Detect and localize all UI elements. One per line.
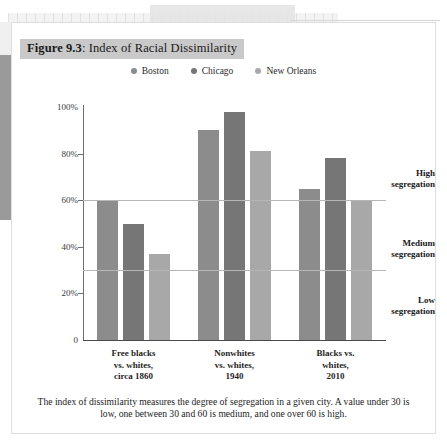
bar-boston-2[interactable] xyxy=(299,189,320,340)
x-category-label-line: Nonwhites xyxy=(184,348,285,360)
segregation-label-line: Medium xyxy=(391,238,435,249)
y-tick-mark xyxy=(78,293,84,294)
bar-chicago-0[interactable] xyxy=(123,224,144,341)
segregation-label-line: segregation xyxy=(391,179,435,190)
legend-marker-icon xyxy=(191,68,197,74)
low-segregation-label: Lowsegregation xyxy=(391,295,435,317)
scan-rule-artifact xyxy=(290,20,440,21)
x-category-label-line: 1940 xyxy=(184,371,285,383)
legend-label: Boston xyxy=(142,66,169,76)
reference-line-30 xyxy=(83,270,386,271)
bar-chicago-1[interactable] xyxy=(224,112,245,340)
x-category-label-line: vs. whites, xyxy=(83,360,184,372)
y-tick-label: 20% xyxy=(62,288,79,298)
y-tick-mark xyxy=(78,154,84,155)
x-category-label: Free blacksvs. whites,circa 1860 xyxy=(83,348,184,383)
x-category-label: Nonwhitesvs. whites,1940 xyxy=(184,348,285,383)
legend-item-new-orleans[interactable]: New Orleans xyxy=(255,66,316,76)
x-category-label-line: Free blacks xyxy=(83,348,184,360)
bar-chicago-2[interactable] xyxy=(325,158,346,340)
legend-item-boston[interactable]: Boston xyxy=(131,66,169,76)
y-tick-label: 100% xyxy=(57,102,78,112)
figure-caption: The index of dissimilarity measures the … xyxy=(30,396,417,421)
x-category-label: Blacks vs.whites,2010 xyxy=(285,348,386,383)
segregation-label-line: High xyxy=(391,168,435,179)
x-category-label-line: circa 1860 xyxy=(83,371,184,383)
page-edge-artifact-dark xyxy=(0,55,11,220)
y-tick-label: 60% xyxy=(62,195,79,205)
plot-area xyxy=(83,107,386,340)
segregation-label-line: segregation xyxy=(391,306,435,317)
bar-new-orleans-1[interactable] xyxy=(250,151,271,340)
bar-new-orleans-0[interactable] xyxy=(149,254,170,340)
figure-title-text: Index of Racial Dissimilarity xyxy=(89,41,237,55)
segregation-label-line: Low xyxy=(391,295,435,306)
y-tick-mark xyxy=(78,247,84,248)
bar-boston-1[interactable] xyxy=(198,130,219,340)
x-category-label-line: Blacks vs. xyxy=(285,348,386,360)
y-tick-label: 0 xyxy=(74,335,79,345)
figure-title-separator: : xyxy=(82,41,89,55)
x-category-label-line: whites, xyxy=(285,360,386,372)
legend-marker-icon xyxy=(255,68,261,74)
reference-line-60 xyxy=(83,200,386,201)
legend-marker-icon xyxy=(131,68,137,74)
legend-label: Chicago xyxy=(202,66,234,76)
legend-item-chicago[interactable]: Chicago xyxy=(191,66,234,76)
y-tick-label: 40% xyxy=(62,242,79,252)
segregation-label-line: segregation xyxy=(391,249,435,260)
x-axis-line xyxy=(83,340,386,341)
x-category-label-line: vs. whites, xyxy=(184,360,285,372)
y-tick-label: 80% xyxy=(62,149,79,159)
legend-label: New Orleans xyxy=(266,66,316,76)
x-category-label-line: 2010 xyxy=(285,371,386,383)
high-segregation-label: Highsegregation xyxy=(391,168,435,190)
y-axis-labels: 020%40%60%80%100% xyxy=(38,0,78,442)
medium-segregation-label: Mediumsegregation xyxy=(391,238,435,260)
